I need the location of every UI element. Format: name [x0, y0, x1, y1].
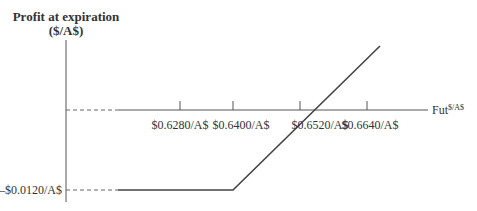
y-axis-unit: ($/A$) — [49, 23, 84, 38]
x-tick-label-4: $0.6640/A$ — [342, 118, 399, 132]
x-tick-label-2: $0.6400/A$ — [213, 118, 270, 132]
x-tick-label-1: $0.6280/A$ — [152, 118, 209, 132]
x-axis-title: Fut$/A$ — [432, 103, 464, 117]
x-tick-label-3: $0.6520/A$ — [292, 118, 349, 132]
payoff-chart: Profit at expiration ($/A$) $0.6280/A$ $… — [0, 0, 477, 211]
x-axis-superscript: $/A$ — [448, 103, 464, 112]
y-axis-title: Profit at expiration — [13, 9, 120, 24]
y-tick-label-premium: –$0.0120/A$ — [0, 183, 62, 197]
